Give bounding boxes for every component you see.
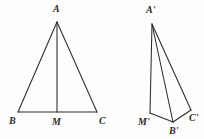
vertex-label-M-prime: M': [138, 117, 150, 127]
vertex-label-B: B: [9, 116, 16, 126]
vertex-label-A: A: [53, 4, 60, 14]
segment-base-M1B1: [150, 113, 173, 122]
segment-side-AB: [18, 22, 57, 112]
vertex-label-C: C: [99, 116, 106, 126]
vertex-label-A-prime: A': [146, 5, 155, 15]
segment-median-A1M1: [150, 24, 152, 113]
segment-side-A1C1: [152, 24, 191, 110]
geometry-figure-panel: ABMCA'M'B'C': [0, 0, 204, 139]
vertex-label-M: M: [52, 117, 61, 127]
vertex-label-C-prime: C': [189, 113, 198, 123]
segment-strokes: [18, 22, 191, 122]
vertex-label-B-prime: B': [169, 126, 178, 136]
segment-side-A1B1: [152, 24, 173, 122]
segment-side-AC: [57, 22, 97, 112]
